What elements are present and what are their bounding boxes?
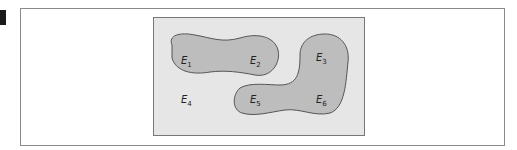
outcome-diagram: E1 E2 E3 E4 E5 E6 [0, 0, 517, 150]
